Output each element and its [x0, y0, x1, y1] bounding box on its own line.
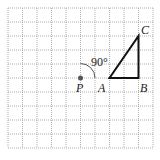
center-point-p [78, 76, 83, 81]
label-p: P [75, 81, 84, 95]
label-a: A [97, 81, 106, 95]
angle-label: 90° [91, 55, 108, 69]
label-c: C [141, 23, 150, 37]
label-b: B [140, 81, 148, 95]
diagram-canvas: 90° P A B C [0, 0, 160, 160]
rotation-diagram: 90° P A B C [0, 0, 160, 160]
